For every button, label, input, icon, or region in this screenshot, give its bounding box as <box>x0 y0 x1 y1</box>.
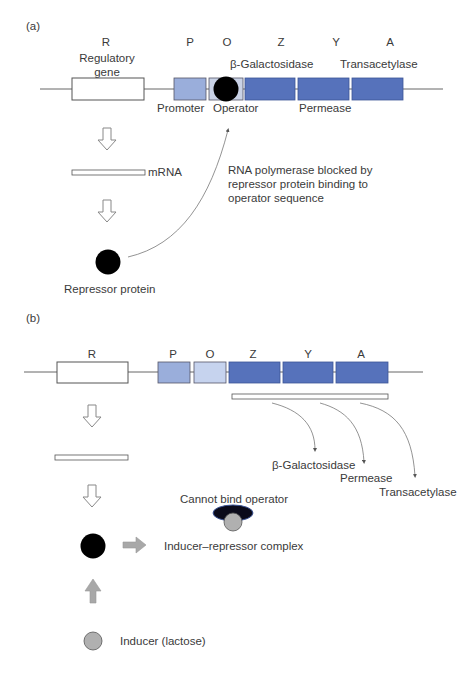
inducer-in-complex <box>224 513 242 531</box>
diagram-graphics <box>0 0 475 675</box>
right-arrow-icon <box>123 537 146 553</box>
down-arrow-icon <box>83 485 101 507</box>
mrna-bar-a <box>72 170 145 175</box>
z-gene-box-a <box>245 78 295 100</box>
product-arrow-a <box>360 403 415 476</box>
repressor-bound-operator <box>214 77 239 102</box>
a-gene-box-a <box>352 78 403 100</box>
down-arrow-icon <box>98 200 116 222</box>
regulatory-gene-box-a <box>72 78 144 100</box>
inducer-lactose <box>84 632 102 650</box>
mrna-bar-b <box>55 455 128 460</box>
promoter-box-a <box>174 78 206 100</box>
repressor-protein-b <box>81 534 106 559</box>
regulatory-gene-box-b <box>57 362 128 383</box>
operator-box-b <box>194 362 226 383</box>
polycistronic-mrna-bar <box>232 394 388 399</box>
promoter-box-b <box>158 362 190 383</box>
product-arrow-y <box>320 403 364 462</box>
binding-arrow <box>128 130 228 257</box>
y-gene-box-b <box>283 362 333 383</box>
repressor-protein <box>96 250 121 275</box>
down-arrow-icon <box>98 128 116 150</box>
z-gene-box-b <box>229 362 280 383</box>
y-gene-box-a <box>298 78 349 100</box>
product-arrow-z <box>272 403 315 450</box>
a-gene-box-b <box>336 362 388 383</box>
up-arrow-icon <box>85 579 101 603</box>
down-arrow-icon <box>83 405 101 427</box>
